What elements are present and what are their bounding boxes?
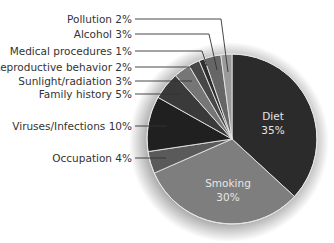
label-alcohol: Alcohol 3% bbox=[74, 28, 132, 40]
label-sunlight: Sunlight/radiation 3% bbox=[18, 75, 132, 87]
label-medical: Medical procedures 1% bbox=[10, 45, 132, 57]
label-occupation: Occupation 4% bbox=[52, 152, 132, 164]
diet-label: Diet bbox=[262, 110, 284, 122]
smoking-label: Smoking bbox=[205, 177, 251, 189]
label-reproductive: Reproductive behavior 2% bbox=[0, 61, 132, 73]
label-viruses: Viruses/Infections 10% bbox=[12, 120, 132, 132]
label-pollution: Pollution 2% bbox=[67, 13, 132, 25]
pie-chart: Diet 35% Smoking 30% Pollution 2% Alcoho… bbox=[0, 0, 334, 243]
smoking-value: 30% bbox=[216, 191, 239, 203]
diet-value: 35% bbox=[261, 124, 284, 136]
label-family: Family history 5% bbox=[39, 88, 132, 100]
